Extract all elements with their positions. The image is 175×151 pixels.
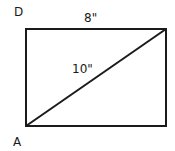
diagonal-length-label: 10" [72, 63, 93, 75]
top-side-length-label: 8" [84, 12, 97, 24]
diagonal-line [26, 29, 166, 126]
vertex-label-d: D [14, 6, 23, 18]
vertex-label-a: A [13, 136, 21, 148]
